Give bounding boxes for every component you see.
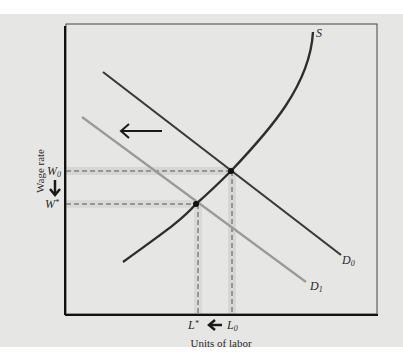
x-axis-title: Units of labor [190,337,251,349]
shift-left-arrow-icon [121,124,162,138]
wage-down-arrow-icon [50,180,60,195]
lstar-highlight-band [194,203,202,314]
y-axis-title: Wage rate [34,149,46,193]
labor-market-chart [0,0,403,362]
d0-label: D0 [342,254,355,266]
l0-label: L0 [227,319,238,331]
initial-equilibrium-point [228,168,234,174]
supply-curve [123,32,313,262]
w0-label: W0 [47,165,61,177]
lstar-label: L* [188,319,199,331]
labor-left-arrow-icon [209,320,222,330]
d1-label: D1 [310,280,323,292]
wstar-label: W* [45,198,59,210]
demand-curve-d0 [103,72,341,255]
supply-label: S [316,27,322,39]
new-equilibrium-point [193,201,199,207]
